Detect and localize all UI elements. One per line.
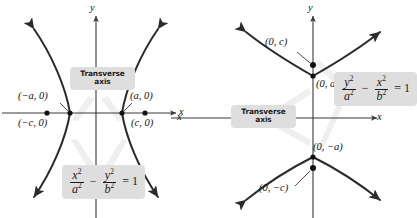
focus-upper-label: (0, c): [265, 36, 287, 47]
focus-right-point: [142, 110, 147, 115]
equation-term-2: y2 b2: [103, 169, 117, 195]
eq-num2-exp: 2: [110, 167, 114, 176]
vertex-lower-point: [310, 154, 315, 159]
eq-num1-exp: 2: [350, 74, 354, 83]
eq-operator: −: [360, 82, 371, 95]
equation-callout: x2 a2 − y2 b2 = 1: [62, 165, 145, 199]
eq-den1-exp: 2: [350, 88, 354, 97]
eq-den1-exp: 2: [78, 181, 82, 190]
x-axis-label-left: x: [177, 111, 182, 122]
focus-left-label: (−c, 0): [18, 117, 47, 128]
focus-right-label: (c, 0): [131, 117, 153, 128]
eq-rhs: = 1: [120, 175, 138, 188]
transverse-axis-line2: axis: [76, 78, 129, 86]
equation-term-2: x2 b2: [375, 76, 389, 102]
vertex-lower-label: (0, −a): [313, 141, 343, 152]
focus-lower-leader: [295, 171, 310, 186]
vertex-right-label: (a, 0): [130, 90, 153, 101]
transverse-axis-callout: Transverse axis: [70, 67, 135, 90]
focus-lower-label: (0, −c): [259, 182, 288, 193]
transverse-axis-line2: axis: [237, 116, 290, 124]
eq-rhs: = 1: [392, 82, 410, 95]
vertex-right-leader: [124, 103, 132, 111]
callout-leader-lines: [71, 96, 128, 168]
vertex-left-label: (−a, 0): [18, 90, 48, 101]
eq-num2-exp: 2: [382, 74, 386, 83]
focus-upper-point: [310, 62, 316, 68]
y-axis-label: y: [308, 2, 313, 13]
transverse-axis-callout: Transverse axis: [231, 105, 296, 128]
y-axis-label: y: [90, 2, 95, 13]
equation-term-1: x2 a2: [70, 169, 84, 195]
focus-left-point: [44, 110, 49, 115]
hyperbola-panel-vertical: y x x (0, c) (0, a) (0, −a) (0, −c) Tran…: [191, 0, 382, 218]
vertex-upper-point: [310, 73, 315, 78]
vertex-right-point: [119, 110, 124, 115]
eq-operator: −: [88, 175, 99, 188]
vertex-left-point: [67, 110, 72, 115]
focus-lower-point: [310, 165, 316, 171]
eq-num1-exp: 2: [78, 167, 82, 176]
eq-den2-exp: 2: [383, 88, 387, 97]
focus-upper-leader: [297, 52, 310, 63]
equation-callout: y2 a2 − x2 b2 = 1: [334, 72, 417, 106]
x-axis-label: x: [377, 111, 382, 122]
hyperbola-panel-horizontal: y x (−a, 0) (a, 0) (−c, 0) (c, 0) Transv…: [0, 0, 191, 218]
eq-den2-exp: 2: [111, 181, 115, 190]
vertex-left-leader: [60, 103, 68, 111]
equation-term-1: y2 a2: [342, 76, 356, 102]
